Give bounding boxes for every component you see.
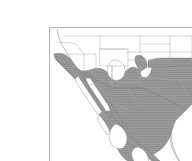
range-gap-central: [107, 60, 125, 80]
map-screenshot: Distribution range map: [0, 0, 192, 161]
map-canvas: [40, 16, 192, 161]
range-map-figure: Distribution range map: [40, 16, 192, 161]
